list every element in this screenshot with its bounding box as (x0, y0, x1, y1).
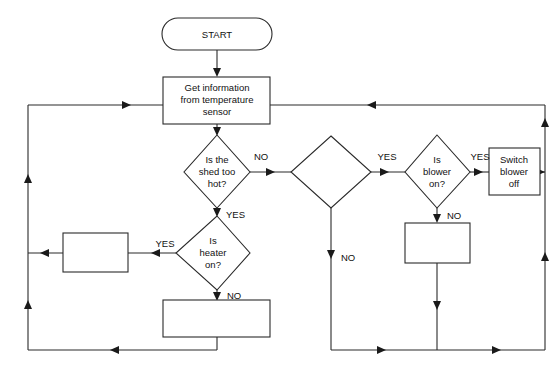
edge-label-heateron-yes: YES (155, 238, 174, 249)
node-blank-process-left[interactable] (63, 233, 128, 272)
node-shed-hot-label-2: shed too (199, 166, 235, 177)
node-start-label: START (202, 29, 232, 40)
node-blower-on-label-3: on? (429, 178, 445, 189)
arrowhead-left-trunk-upper (24, 174, 32, 183)
node-blank-process-bottom[interactable] (163, 300, 270, 337)
edge-label-bloweron-yes: YES (470, 151, 489, 162)
arrowhead-right-trunk-upper (541, 118, 549, 127)
node-heater-on-label-2: heater (200, 247, 227, 258)
node-switch-blower-off-label-3: off (509, 178, 520, 189)
arrowhead-blankright-down (433, 301, 441, 310)
arrowhead-heateron-yes (151, 249, 160, 257)
node-heater-on-label-1: Is (209, 235, 217, 246)
arrowhead-shedhot-no (266, 168, 275, 176)
arrowhead-blankdecision-yes (380, 168, 389, 176)
edge-label-shedhot-yes: YES (226, 209, 245, 220)
edge-label-blankdecision-yes: YES (377, 151, 396, 162)
arrowhead-blankleft-to-trunk (40, 249, 49, 257)
node-shed-hot-label-1: Is the (205, 154, 228, 165)
node-blank-decision[interactable] (291, 136, 371, 208)
node-heater-on-label-3: on? (205, 259, 221, 270)
node-blower-on-label-1: Is (433, 154, 441, 165)
node-blank-process-right[interactable] (405, 223, 470, 263)
arrowhead-blankdecision-no (327, 250, 335, 259)
node-blower-on-label-2: blower (423, 166, 451, 177)
node-get-info-label-1: Get information (185, 82, 250, 93)
edge-label-blankdecision-no: NO (341, 252, 355, 263)
node-get-info-label-3: sensor (203, 106, 232, 117)
flowchart-canvas: START Get information from temperature s… (0, 0, 559, 370)
arrowhead-bottom-rail-left (110, 346, 119, 354)
edge-label-shedhot-no: NO (254, 151, 268, 162)
node-switch-blower-off-label-1: Switch (500, 154, 528, 165)
node-switch-blower-off-label-2: blower (500, 166, 528, 177)
flowchart-diagram: START Get information from temperature s… (0, 0, 559, 370)
arrowhead-left-loop-into-getinfo (122, 101, 131, 109)
arrowhead-left-trunk-lower (24, 300, 32, 309)
node-get-info-label-2: from temperature (181, 94, 254, 105)
arrowhead-start-to-getinfo (213, 68, 221, 77)
arrowhead-right-loop-into-getinfo (367, 101, 376, 109)
edge-label-heateron-no: NO (227, 290, 241, 301)
arrowhead-bottom-rail-right-a (377, 346, 386, 354)
arrowhead-bottom-rail-right-b (492, 346, 501, 354)
arrowhead-bloweron-yes (474, 168, 483, 176)
node-shed-hot-label-3: hot? (208, 178, 227, 189)
arrowhead-bloweron-no (433, 214, 441, 223)
arrowhead-right-trunk-lower (541, 252, 549, 261)
edge-label-bloweron-no: NO (447, 210, 461, 221)
